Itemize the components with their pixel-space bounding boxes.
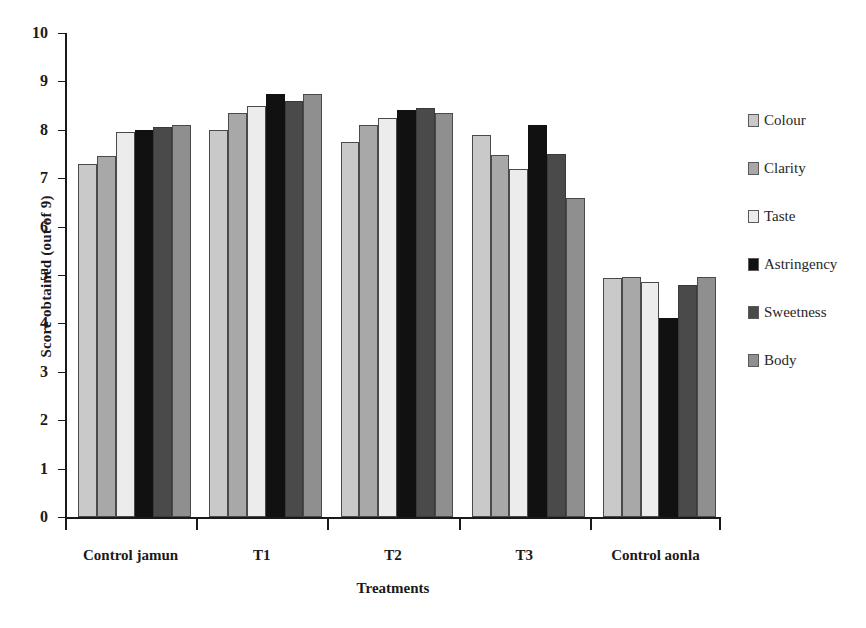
y-axis-tick: 7 [58, 178, 65, 179]
x-axis-tick [590, 519, 592, 530]
chart-legend: ColourClarityTasteAstringencySweetnessBo… [748, 96, 866, 384]
bar [435, 113, 454, 517]
y-axis-tick: 1 [58, 469, 65, 470]
bar-group [603, 33, 716, 517]
y-axis-tick-label: 2 [40, 412, 48, 428]
x-axis-tick [196, 519, 198, 530]
bar [209, 130, 228, 517]
bar [97, 156, 116, 517]
bar [378, 118, 397, 517]
bar-group [341, 33, 454, 517]
y-axis-tick-label: 4 [40, 315, 48, 331]
bar [416, 108, 435, 517]
bar-group [472, 33, 585, 517]
x-axis-group-label: Control aonla [611, 547, 699, 564]
bar [641, 282, 660, 517]
legend-label: Clarity [764, 160, 806, 177]
legend-swatch-icon [748, 114, 759, 127]
y-axis-tick-label: 6 [40, 218, 48, 234]
bar [247, 106, 266, 517]
y-axis-tick-label: 10 [32, 25, 48, 41]
bar [697, 277, 716, 517]
bar [135, 130, 154, 517]
y-axis-tick-label: 8 [40, 121, 48, 137]
legend-label: Astringency [764, 256, 837, 273]
bar [528, 125, 547, 517]
y-axis-tick: 8 [58, 130, 65, 131]
legend-item[interactable]: Taste [748, 192, 866, 240]
y-axis-tick: 10 [58, 33, 65, 34]
bar [341, 142, 360, 517]
legend-swatch-icon [748, 162, 759, 175]
legend-label: Body [764, 352, 797, 369]
legend-label: Colour [764, 112, 806, 129]
y-axis-tick: 3 [58, 372, 65, 373]
y-axis-line [65, 33, 67, 519]
bar [509, 169, 528, 517]
bar-group [78, 33, 191, 517]
bar [78, 164, 97, 517]
bar [491, 155, 510, 517]
y-axis-tick: 6 [58, 227, 65, 228]
y-axis-tick-label: 3 [40, 363, 48, 379]
bar [678, 285, 697, 517]
bar [603, 278, 622, 517]
x-axis-tick [327, 519, 329, 530]
y-axis-tick-label: 1 [40, 460, 48, 476]
x-axis-tick [459, 519, 461, 530]
bar [359, 125, 378, 517]
x-axis-group-label: T3 [515, 547, 533, 564]
legend-swatch-icon [748, 258, 759, 271]
y-axis-tick: 5 [58, 275, 65, 276]
y-axis-tick: 2 [58, 420, 65, 421]
legend-item[interactable]: Colour [748, 96, 866, 144]
y-axis-tick-label: 9 [40, 73, 48, 89]
x-axis-group-label: T2 [384, 547, 402, 564]
bar-group [209, 33, 322, 517]
legend-swatch-icon [748, 354, 759, 367]
x-axis-tick [65, 519, 67, 530]
bar [303, 94, 322, 518]
bar [566, 198, 585, 517]
bar [285, 101, 304, 517]
y-axis-tick-label: 0 [40, 509, 48, 525]
y-axis-tick: 9 [58, 81, 65, 82]
bar [472, 135, 491, 517]
y-axis-tick-label: 7 [40, 170, 48, 186]
y-axis-tick-label: 5 [40, 267, 48, 283]
bar [622, 277, 641, 517]
bar-chart-figure: Score obtained (out of 9) 012345678910 C… [0, 0, 866, 628]
bar [228, 113, 247, 517]
x-axis-line [65, 517, 721, 519]
bar [116, 132, 135, 517]
legend-item[interactable]: Clarity [748, 144, 866, 192]
bar [172, 125, 191, 517]
y-axis-tick: 4 [58, 323, 65, 324]
plot-area: 012345678910 Control jamunT1T2T3Control … [65, 33, 721, 519]
legend-item[interactable]: Sweetness [748, 288, 866, 336]
x-axis-tick [719, 519, 721, 530]
x-axis-group-label: Control jamun [83, 547, 178, 564]
legend-label: Sweetness [764, 304, 827, 321]
legend-item[interactable]: Body [748, 336, 866, 384]
legend-swatch-icon [748, 210, 759, 223]
x-axis-title: Treatments [65, 580, 721, 597]
legend-label: Taste [764, 208, 795, 225]
bar [266, 94, 285, 518]
bar [397, 110, 416, 517]
x-axis-group-label: T1 [253, 547, 271, 564]
bar [153, 127, 172, 517]
legend-swatch-icon [748, 306, 759, 319]
legend-item[interactable]: Astringency [748, 240, 866, 288]
y-axis-tick: 0 [58, 517, 65, 518]
bar [547, 154, 566, 517]
bar [659, 318, 678, 517]
